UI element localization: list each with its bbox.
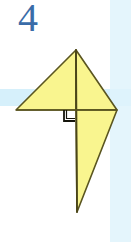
- figure-label-4: 4: [18, 0, 38, 38]
- upper-left-triangle: [16, 50, 76, 110]
- right-angle-square: [64, 110, 75, 121]
- right-angle-square-inner: [67, 110, 76, 119]
- figure-canvas: 4: [0, 0, 131, 242]
- central-vertical-fold: [76, 50, 77, 212]
